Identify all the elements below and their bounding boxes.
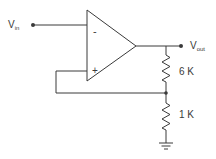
ground-icon (159, 143, 173, 149)
noninverting-sign: + (92, 65, 98, 76)
input-terminal-dot (31, 23, 35, 27)
circuit-diagram: - + Vin Vout 6 K 1 K (0, 0, 216, 159)
resistor-r1 (162, 55, 170, 82)
resistor-r2 (162, 103, 170, 130)
junction-dot (164, 91, 168, 95)
r1-label: 6 K (179, 66, 194, 77)
vout-label: Vout (190, 40, 205, 52)
output-terminal-dot (179, 44, 183, 48)
feedback-wire (56, 71, 166, 93)
inverting-sign: - (93, 25, 97, 37)
r2-label: 1 K (179, 109, 194, 120)
vin-label: Vin (8, 19, 19, 31)
